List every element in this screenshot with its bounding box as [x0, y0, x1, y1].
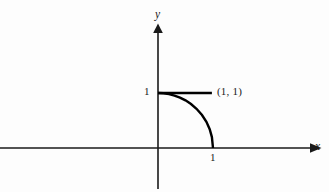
y-axis-tick-label-1: 1	[144, 86, 150, 97]
y-axis-label: y	[155, 9, 160, 21]
point-annotation-label: (1, 1)	[217, 86, 242, 97]
y-axis-arrow-icon	[153, 24, 163, 34]
x-axis-label: x	[315, 141, 320, 153]
quarter-arc-curve	[158, 93, 213, 148]
x-axis-tick-label-1: 1	[210, 152, 216, 163]
coordinate-plot	[0, 0, 329, 192]
figure-canvas: y x 1 1 (1, 1)	[0, 0, 329, 192]
